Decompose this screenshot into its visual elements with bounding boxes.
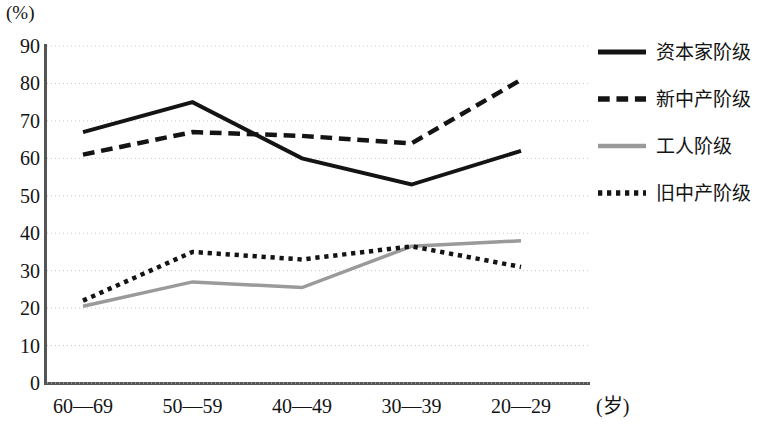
- y-tick-label: 80: [0, 73, 40, 93]
- x-axis-unit-label: (岁): [596, 394, 629, 418]
- y-tick-label: 10: [0, 336, 40, 356]
- legend-item[interactable]: 新中产阶级: [598, 75, 757, 122]
- y-tick-label: 20: [0, 298, 40, 318]
- legend-item-label: 工人阶级: [656, 135, 732, 157]
- y-tick-label: 90: [0, 36, 40, 56]
- y-tick-label: 40: [0, 223, 40, 243]
- y-axis-tick-labels: 9080706050403020100: [0, 0, 40, 430]
- plot-svg: [47, 46, 590, 383]
- chart-legend: 资本家阶级新中产阶级工人阶级旧中产阶级: [598, 28, 757, 216]
- line-chart: (%) 9080706050403020100 60—6950—5940—493…: [0, 0, 757, 430]
- x-axis-tick-labels: 60—6950—5940—4930—3920—29: [47, 394, 590, 424]
- legend-item-label: 旧中产阶级: [656, 182, 751, 204]
- dashed-line-swatch: [598, 92, 646, 106]
- series-line-1: [83, 80, 521, 155]
- solid-line-swatch: [598, 45, 646, 59]
- x-tick-label: 20—29: [491, 394, 551, 418]
- y-tick-label: 50: [0, 186, 40, 206]
- legend-item[interactable]: 旧中产阶级: [598, 169, 757, 216]
- x-tick-label: 30—39: [382, 394, 442, 418]
- legend-item[interactable]: 工人阶级: [598, 122, 757, 169]
- x-tick-label: 60—69: [53, 394, 113, 418]
- y-tick-label: 0: [0, 373, 40, 393]
- legend-item-label: 新中产阶级: [656, 88, 751, 110]
- legend-item-label: 资本家阶级: [656, 41, 751, 63]
- y-tick-label: 30: [0, 261, 40, 281]
- y-tick-label: 60: [0, 148, 40, 168]
- y-tick-label: 70: [0, 111, 40, 131]
- x-tick-label: 50—59: [163, 394, 223, 418]
- x-tick-label: 40—49: [272, 394, 332, 418]
- series-line-2: [83, 241, 521, 307]
- solid-gray-line-swatch: [598, 139, 646, 153]
- dotted-line-swatch: [598, 186, 646, 200]
- plot-area: [47, 46, 590, 383]
- legend-item[interactable]: 资本家阶级: [598, 28, 757, 75]
